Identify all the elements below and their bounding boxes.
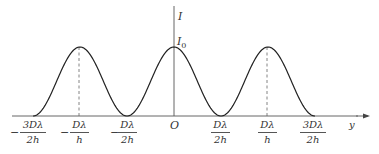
tick-numerator: Dλ <box>258 120 277 133</box>
tick-denominator: h <box>258 133 277 145</box>
y-axis-label: I <box>178 11 182 22</box>
peak-label-sub: 0 <box>181 41 186 50</box>
tick-denominator: 2h <box>211 133 230 145</box>
tick-numerator: Dλ <box>211 120 230 133</box>
tick-denominator: 2h <box>300 133 326 145</box>
tick-neg-dl-h: Dλ h <box>70 120 89 145</box>
interference-intensity-chart: I I0 O y − 3Dλ 2h − Dλ h − Dλ 2h Dλ 2h D… <box>0 0 379 154</box>
tick-numerator: 3Dλ <box>300 120 326 133</box>
tick-numerator: Dλ <box>118 120 137 133</box>
tick-denominator: h <box>70 133 89 145</box>
tick-neg-3dl-2h: 3Dλ 2h <box>20 120 46 145</box>
tick-minus-sign: − <box>10 126 19 139</box>
tick-denominator: 2h <box>118 133 137 145</box>
tick-pos-3dl-2h: 3Dλ 2h <box>300 120 326 145</box>
origin-label: O <box>170 120 179 131</box>
peak-label: I0 <box>177 36 186 50</box>
tick-numerator: 3Dλ <box>20 120 46 133</box>
x-axis-arrow-icon <box>363 114 370 119</box>
tick-pos-dl-2h: Dλ 2h <box>211 120 230 145</box>
tick-numerator: Dλ <box>70 120 89 133</box>
tick-denominator: 2h <box>20 133 46 145</box>
tick-minus-sign: − <box>60 126 69 139</box>
tick-neg-dl-2h: Dλ 2h <box>118 120 137 145</box>
tick-pos-dl-h: Dλ h <box>258 120 277 145</box>
x-axis-label: y <box>349 120 355 130</box>
